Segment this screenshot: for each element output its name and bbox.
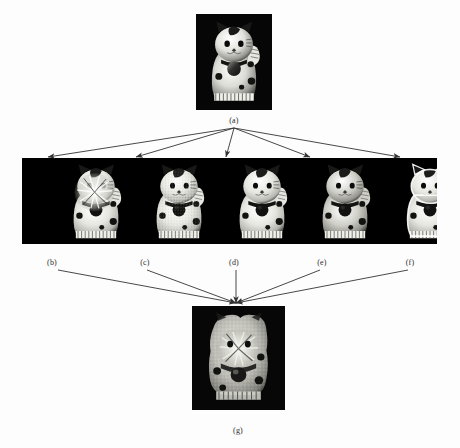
multi-view-filmstrip[interactable]: [22, 158, 437, 244]
label-g: (g): [233, 426, 243, 435]
fan-out-arrow-group: [48, 128, 400, 157]
cat-illustration-speckle: [143, 160, 215, 242]
label-f: (f): [406, 258, 415, 267]
fan-out-arrow: [136, 128, 234, 157]
fan-in-arrow: [147, 270, 236, 303]
fan-in-arrow: [236, 270, 408, 303]
cat-illustration-plain-dark: [309, 160, 381, 242]
cat-illustration-outlined: [394, 160, 437, 242]
filmstrip-frame[interactable]: [60, 160, 132, 242]
cat-illustration-highlight-burst: [60, 160, 132, 242]
label-e: (e): [317, 258, 326, 267]
cat-figurine-fused: [192, 306, 285, 410]
cat-illustration-g: [192, 306, 285, 410]
filmstrip-frame[interactable]: [309, 160, 381, 242]
fan-in-arrow-group: [58, 270, 408, 303]
source-image-panel[interactable]: [196, 14, 272, 110]
fan-out-arrow: [226, 128, 234, 157]
figure-container: (a): [0, 0, 460, 448]
label-a: (a): [229, 116, 238, 125]
label-c: (c): [140, 258, 149, 267]
label-b: (b): [47, 258, 57, 267]
fan-out-arrow: [48, 128, 234, 157]
label-d: (d): [229, 258, 239, 267]
cat-illustration-a: [196, 14, 272, 110]
filmstrip-frame[interactable]: [394, 160, 437, 242]
fan-in-arrow: [236, 270, 320, 303]
cat-figurine-source: [196, 14, 272, 110]
cat-illustration-plain: [226, 160, 298, 242]
fused-result-panel[interactable]: [192, 306, 285, 410]
filmstrip-frame[interactable]: [143, 160, 215, 242]
fan-in-arrow: [58, 270, 236, 303]
filmstrip-frame[interactable]: [226, 160, 298, 242]
fan-out-arrow: [234, 128, 310, 157]
fan-out-arrow: [234, 128, 400, 157]
